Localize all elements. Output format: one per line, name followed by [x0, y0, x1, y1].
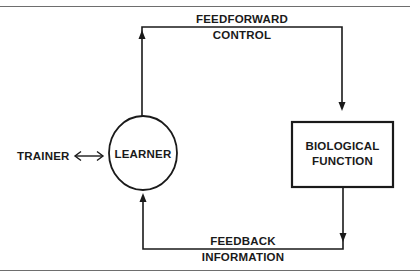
trainer-node: TRAINER: [17, 150, 103, 162]
arrow-up-icon: [140, 193, 147, 202]
arrow-up-icon: [139, 30, 146, 39]
trainer-label: TRAINER: [17, 150, 70, 162]
biological-function-label-line1: BIOLOGICAL: [305, 140, 379, 152]
feedforward-label-line2: CONTROL: [213, 29, 271, 41]
arrow-down-icon: [339, 102, 346, 111]
feedback-loop-diagram: LEARNER TRAINER BIOLOGICAL FUNCTION FEED…: [0, 0, 420, 277]
figure-page: LEARNER TRAINER BIOLOGICAL FUNCTION FEED…: [0, 0, 420, 277]
learner-node: LEARNER: [109, 116, 177, 190]
biological-function-node: BIOLOGICAL FUNCTION: [292, 122, 393, 187]
feedback-label-line2: INFORMATION: [202, 251, 284, 263]
learner-label: LEARNER: [115, 148, 172, 160]
feedback-label-line1: FEEDBACK: [210, 235, 276, 247]
feedforward-label-line1: FEEDFORWARD: [196, 13, 288, 25]
biological-function-label-line2: FUNCTION: [312, 155, 373, 167]
arrow-down-icon: [340, 233, 347, 242]
